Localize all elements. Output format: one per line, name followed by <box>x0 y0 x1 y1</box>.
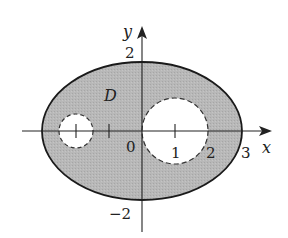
region-label: D <box>103 86 117 105</box>
y-tick-label-neg2: −2 <box>109 205 131 223</box>
x-tick-label-3: 3 <box>241 144 251 162</box>
x-tick-label-2: 2 <box>206 144 216 162</box>
y-axis-label: y <box>122 22 133 41</box>
diagram-canvas: D x y 0 1 2 3 2 −2 <box>0 0 288 238</box>
x-axis-label: x <box>262 138 271 157</box>
x-tick-label-1: 1 <box>171 144 181 162</box>
y-tick-label-2: 2 <box>125 44 135 62</box>
region-diagram: D x y 0 1 2 3 2 −2 <box>0 0 288 238</box>
origin-label: 0 <box>126 138 136 156</box>
